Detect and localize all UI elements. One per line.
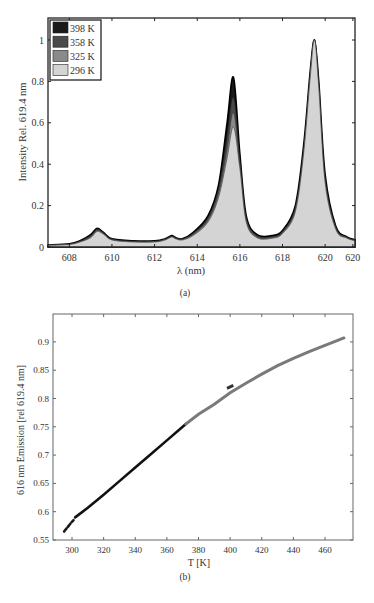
y-tick-label: 0	[39, 242, 44, 253]
x-tick-label: 608	[62, 252, 77, 263]
x-axis-label-a: λ (nm)	[177, 265, 206, 277]
caption-b: (b)	[179, 572, 190, 583]
x-tick-label: 614	[190, 252, 205, 263]
y-axis-ticks-b: 0.550.60.650.70.750.80.850.9	[33, 337, 353, 545]
x-tick-label: 360	[160, 545, 174, 555]
x-tick-label: 440	[287, 545, 301, 555]
legend-swatch	[53, 22, 68, 33]
y-tick-label: 0.2	[32, 200, 45, 211]
x-tick-label: 620	[345, 252, 360, 263]
x-tick-label: 420	[255, 545, 269, 555]
y-tick-label: 0.65	[33, 478, 49, 488]
legend-label: 398 K	[70, 23, 96, 34]
x-axis-ticks-b: 300320340360380400420440460	[65, 314, 332, 555]
y-tick-label: 1	[39, 35, 44, 46]
figure-a: 608610612614616618620620 00.20.40.60.81 …	[0, 0, 374, 310]
emission-lines	[64, 338, 344, 532]
emission-line-segment	[75, 424, 186, 517]
legend-label: 296 K	[70, 65, 96, 76]
legend-swatch	[53, 65, 68, 76]
x-tick-label: 300	[65, 545, 79, 555]
emission-line-segment	[64, 520, 73, 531]
plot-frame-b	[53, 314, 353, 540]
y-tick-label: 0.75	[33, 422, 49, 432]
x-tick-label: 612	[147, 252, 162, 263]
y-tick-label: 0.4	[32, 159, 45, 170]
y-tick-label: 0.8	[32, 76, 45, 87]
legend-swatch	[53, 50, 68, 61]
legend: 398 K358 K325 K296 K	[50, 20, 101, 80]
x-tick-label: 620	[318, 252, 333, 263]
spectrum-chart: 608610612614616618620620 00.20.40.60.81 …	[0, 0, 374, 310]
x-tick-label: 618	[275, 252, 290, 263]
emission-line-segment	[186, 338, 344, 424]
y-axis-label-a: Intensity Rel. 619.4 nm	[17, 83, 28, 182]
y-tick-label: 0.85	[33, 365, 49, 375]
y-tick-label: 0.6	[32, 117, 45, 128]
y-tick-label: 0.8	[38, 394, 50, 404]
legend-label: 325 K	[70, 51, 96, 62]
y-tick-label: 0.9	[38, 337, 50, 347]
x-tick-label: 380	[192, 545, 206, 555]
y-axis-label-b: 616 nm Emission [rel 619.4 nm]	[15, 365, 26, 495]
x-tick-label: 610	[104, 252, 119, 263]
y-tick-label: 0.7	[38, 450, 50, 460]
x-tick-label: 340	[129, 545, 143, 555]
caption-a: (a)	[180, 288, 191, 299]
x-axis-label-b: T [K]	[188, 557, 210, 568]
x-tick-label: 400	[223, 545, 237, 555]
x-tick-label: 616	[232, 252, 247, 263]
y-tick-label: 0.55	[33, 535, 49, 545]
legend-label: 358 K	[70, 37, 96, 48]
x-tick-label: 320	[97, 545, 111, 555]
y-tick-label: 0.6	[38, 507, 50, 517]
x-tick-label: 460	[318, 545, 332, 555]
legend-swatch	[53, 36, 68, 47]
